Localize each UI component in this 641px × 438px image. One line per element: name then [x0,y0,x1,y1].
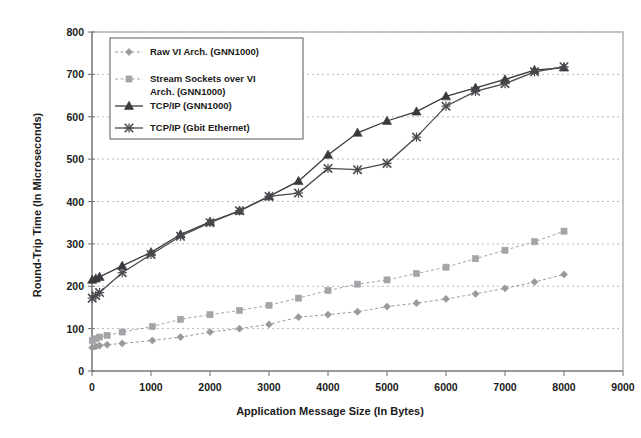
chart-legend: Raw VI Arch. (GNN1000)Stream Sockets ove… [110,38,303,139]
x-tick-label: 9000 [611,381,635,393]
x-axis-title: Application Message Size (In Bytes) [236,405,424,417]
data-point [146,250,155,259]
data-point [177,316,183,322]
data-point [323,164,332,173]
data-point [384,277,390,283]
data-point [149,323,155,329]
data-point [207,312,213,318]
data-point [325,287,331,293]
data-point [95,288,104,297]
x-tick-label: 2000 [198,381,222,393]
data-point [443,264,449,270]
round-trip-time-line-chart: 8007006005004003002001000 01000200030004… [0,0,641,438]
y-tick-label: 100 [66,323,84,335]
data-point [266,302,272,308]
data-point [559,62,568,71]
data-point [531,239,537,245]
x-tick-label: 7000 [493,381,517,393]
data-point [382,159,391,168]
data-point [441,102,450,111]
data-point [502,247,508,253]
x-tick-label: 4000 [316,381,340,393]
x-tick-label: 8000 [552,381,576,393]
legend-label: TCP/IP (Gbit Ethernet) [150,122,250,133]
data-point [294,188,303,197]
legend-marker-x-icon [124,123,133,132]
x-tick-label: 0 [89,381,95,393]
y-tick-label: 800 [66,26,84,38]
data-point [530,67,539,76]
legend-label: Raw VI Arch. (GNN1000) [150,46,259,57]
data-point [104,332,110,338]
x-tick-label: 3000 [257,381,281,393]
data-point [412,132,421,141]
y-tick-label: 500 [66,153,84,165]
chart-figure: 8007006005004003002001000 01000200030004… [0,0,641,438]
data-point [354,281,360,287]
x-tick-label: 1000 [139,381,163,393]
data-point [500,79,509,88]
x-tick-label: 5000 [375,381,399,393]
y-tick-label: 300 [66,238,84,250]
data-point [236,307,242,313]
data-point [561,228,567,234]
y-axis-title: Round-Trip Time (In Microseconds) [31,112,43,297]
y-tick-label: 600 [66,111,84,123]
data-point [176,232,185,241]
legend-marker-square-icon [126,76,132,82]
data-point [472,256,478,262]
y-tick-label: 0 [78,365,84,377]
y-tick-label: 700 [66,68,84,80]
data-point [413,270,419,276]
data-point [471,87,480,96]
data-point [96,334,102,340]
data-point [235,206,244,215]
data-point [119,329,125,335]
data-point [205,218,214,227]
data-point [264,192,273,201]
y-tick-label: 400 [66,196,84,208]
data-point [118,268,127,277]
y-tick-label: 200 [66,280,84,292]
data-point [295,295,301,301]
x-tick-label: 6000 [434,381,458,393]
legend-label: Stream Sockets over VI [150,73,256,84]
legend-label-continued: Arch. (GNN1000) [150,86,226,97]
legend-label: TCP/IP (GNN1000) [150,100,232,111]
data-point [353,165,362,174]
